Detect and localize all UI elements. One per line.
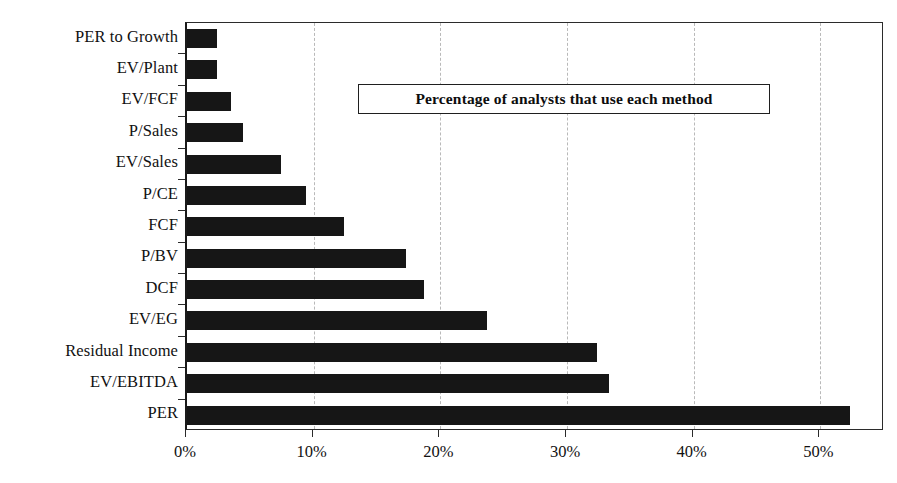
x-axis-tick bbox=[312, 430, 313, 437]
x-axis-tick bbox=[438, 430, 439, 437]
bar-row bbox=[187, 305, 882, 336]
y-axis-tick bbox=[178, 367, 185, 368]
x-axis-tick-label: 50% bbox=[778, 442, 858, 461]
bar-row bbox=[187, 274, 882, 305]
bar[interactable] bbox=[187, 123, 243, 142]
bar[interactable] bbox=[187, 217, 344, 236]
y-axis-label: EV/EBITDA bbox=[0, 374, 178, 391]
x-axis-tick bbox=[692, 430, 693, 437]
bar-row bbox=[187, 400, 882, 430]
x-axis-tick-label: 20% bbox=[398, 442, 478, 461]
y-axis-label: EV/Sales bbox=[0, 154, 178, 171]
x-axis-tick-label: 10% bbox=[272, 442, 352, 461]
legend-box: Percentage of analysts that use each met… bbox=[358, 84, 770, 114]
y-axis-tick bbox=[178, 85, 185, 86]
bar[interactable] bbox=[187, 92, 231, 111]
y-axis-tick bbox=[178, 242, 185, 243]
y-axis-tick bbox=[178, 210, 185, 211]
y-axis-tick bbox=[178, 273, 185, 274]
y-axis-tick bbox=[178, 399, 185, 400]
bar-row bbox=[187, 243, 882, 274]
y-axis-label: P/BV bbox=[0, 248, 178, 265]
bar[interactable] bbox=[187, 29, 217, 48]
bar-chart: PER to GrowthEV/PlantEV/FCFP/SalesEV/Sal… bbox=[0, 0, 897, 483]
y-axis-label: PER to Growth bbox=[0, 29, 178, 46]
y-axis-tick bbox=[178, 148, 185, 149]
y-axis-tick bbox=[178, 336, 185, 337]
bar-row bbox=[187, 368, 882, 399]
bar[interactable] bbox=[187, 374, 609, 393]
y-axis-label: P/Sales bbox=[0, 123, 178, 140]
bar-row bbox=[187, 180, 882, 211]
y-axis-label: EV/EG bbox=[0, 311, 178, 328]
y-axis-label: EV/Plant bbox=[0, 60, 178, 77]
bar-row bbox=[187, 54, 882, 85]
x-axis-tick-label: 30% bbox=[525, 442, 605, 461]
bar[interactable] bbox=[187, 186, 306, 205]
bar-row bbox=[187, 23, 882, 54]
y-axis-label: PER bbox=[0, 405, 178, 422]
x-axis-tick bbox=[818, 430, 819, 437]
y-axis-label: DCF bbox=[0, 280, 178, 297]
y-axis-tick bbox=[178, 179, 185, 180]
legend-label: Percentage of analysts that use each met… bbox=[415, 90, 712, 108]
y-axis-label: FCF bbox=[0, 217, 178, 234]
bar[interactable] bbox=[187, 311, 487, 330]
y-axis-label: P/CE bbox=[0, 186, 178, 203]
bar-row bbox=[187, 211, 882, 242]
y-axis-tick bbox=[178, 304, 185, 305]
x-axis-tick bbox=[565, 430, 566, 437]
bar-row bbox=[187, 149, 882, 180]
bar[interactable] bbox=[187, 280, 424, 299]
bar[interactable] bbox=[187, 406, 850, 425]
bar[interactable] bbox=[187, 249, 406, 268]
bar[interactable] bbox=[187, 155, 281, 174]
bar[interactable] bbox=[187, 343, 597, 362]
y-axis-label: EV/FCF bbox=[0, 91, 178, 108]
x-axis-tick-label: 0% bbox=[145, 442, 225, 461]
x-axis-tick-label: 40% bbox=[652, 442, 732, 461]
x-axis-tick bbox=[185, 430, 186, 437]
bar-row bbox=[187, 337, 882, 368]
y-axis-label: Residual Income bbox=[0, 343, 178, 360]
y-axis-tick bbox=[178, 53, 185, 54]
y-axis-tick bbox=[178, 116, 185, 117]
bar-row bbox=[187, 117, 882, 148]
bar[interactable] bbox=[187, 60, 217, 79]
